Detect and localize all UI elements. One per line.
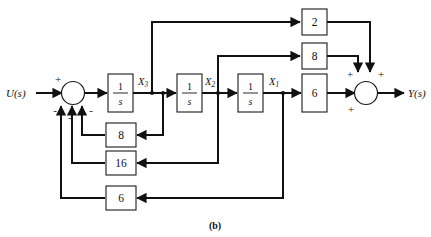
wire-x3-down-to-gain-8-feedback: [137, 93, 163, 135]
integrator-1-denominator: s: [119, 96, 123, 107]
input-summing-junction[interactable]: [62, 82, 85, 105]
output-label: Y(s): [408, 87, 426, 100]
wire-gain8top-to-output-sum: [327, 56, 358, 72]
figure-container: 1 s 1 s 1 s 6 2 8 8 16 6 U(s) Y(s): [0, 0, 431, 237]
gain-2-label: 2: [312, 16, 318, 28]
junction-dot-x3: [150, 91, 154, 95]
input-sum-sign-minus-2: -: [68, 111, 72, 123]
integrator-2-numerator: 1: [187, 81, 192, 92]
integrator-1-numerator: 1: [118, 81, 123, 92]
input-sum-sign-minus-1: -: [53, 104, 57, 116]
signal-label-x1: X1: [268, 76, 279, 90]
wire-gain-8-feedback-to-sum: [82, 106, 105, 135]
gain-8-top-label: 8: [312, 50, 318, 62]
signal-label-x3: X3: [137, 76, 148, 90]
integrator-3-denominator: s: [249, 96, 253, 107]
output-sum-sign-plus-2: +: [378, 68, 384, 80]
gain-6-forward-label: 6: [312, 87, 318, 99]
junction-dot-x3-b: [161, 91, 165, 95]
input-label: U(s): [6, 87, 26, 100]
junction-dot-x1: [281, 91, 285, 95]
gain-16-feedback-label: 16: [115, 157, 127, 169]
gain-6-feedback-label: 6: [118, 192, 124, 204]
integrator-3-numerator: 1: [248, 81, 253, 92]
gain-8-feedback-label: 8: [118, 129, 124, 141]
input-sum-sign-minus-3: -: [89, 104, 93, 116]
junction-dot-x2: [216, 91, 220, 95]
figure-caption: (b): [209, 220, 221, 232]
output-summing-junction[interactable]: [355, 82, 378, 105]
output-sum-sign-plus-1: +: [347, 68, 353, 80]
block-diagram: 1 s 1 s 1 s 6 2 8 8 16 6 U(s) Y(s): [0, 0, 431, 237]
input-sum-sign-plus: +: [55, 73, 61, 85]
integrator-2-denominator: s: [188, 96, 192, 107]
signal-label-x2: X2: [204, 76, 215, 90]
wire-gain2-to-output-sum: [327, 22, 370, 72]
output-sum-sign-plus-3: +: [348, 103, 354, 115]
